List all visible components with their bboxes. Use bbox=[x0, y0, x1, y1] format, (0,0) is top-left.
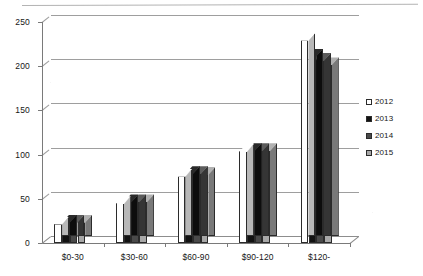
chart-floor-edge bbox=[42, 243, 350, 244]
bar-side-face bbox=[255, 143, 262, 236]
chart-floor-edge bbox=[350, 236, 359, 244]
legend-label: 2012 bbox=[375, 97, 393, 106]
plot-area: 050100150200250$0-30$30-60$60-90$90-120$… bbox=[0, 0, 423, 276]
bar-side-face bbox=[185, 169, 192, 236]
y-axis-label: 50 bbox=[4, 194, 30, 204]
y-axis-label: 250 bbox=[4, 17, 30, 27]
y-axis-label: 100 bbox=[4, 150, 30, 160]
legend-swatch-icon bbox=[366, 150, 372, 156]
bar-2012-60-90 bbox=[178, 169, 186, 243]
y-axis-line bbox=[42, 22, 43, 244]
bar-front-face bbox=[239, 151, 247, 243]
legend-label: 2015 bbox=[375, 148, 393, 157]
x-axis-label: $120- bbox=[285, 252, 353, 262]
gridline bbox=[51, 15, 359, 16]
bar-2012-0-30 bbox=[54, 217, 62, 243]
x-axis-label: $0-30 bbox=[39, 252, 107, 262]
y-axis-label: 0 bbox=[4, 238, 30, 248]
bar-side-face bbox=[262, 143, 269, 236]
y-axis-label: 200 bbox=[4, 61, 30, 71]
legend-item-2013[interactable]: 2013 bbox=[366, 113, 393, 124]
legend-item-2014[interactable]: 2014 bbox=[366, 130, 393, 141]
x-axis-tick bbox=[288, 243, 289, 247]
bar-front-face bbox=[301, 40, 309, 243]
legend-item-2012[interactable]: 2012 bbox=[366, 96, 393, 107]
x-axis-tick bbox=[165, 243, 166, 247]
legend-label: 2013 bbox=[375, 114, 393, 123]
bar-2012-30-60 bbox=[116, 196, 124, 243]
bar-chart: 050100150200250$0-30$30-60$60-90$90-120$… bbox=[0, 0, 423, 276]
bar-side-face bbox=[308, 33, 315, 236]
x-axis-label: $30-60 bbox=[100, 252, 168, 262]
bar-side-face bbox=[316, 49, 323, 236]
bar-side-face bbox=[247, 144, 254, 236]
bar-front-face bbox=[54, 224, 62, 243]
legend-swatch-icon bbox=[366, 116, 372, 122]
x-axis-label: $60-90 bbox=[162, 252, 230, 262]
x-axis-tick bbox=[104, 243, 105, 247]
y-axis-label: 150 bbox=[4, 105, 30, 115]
x-axis-tick bbox=[350, 243, 351, 247]
bar-front-face bbox=[116, 203, 124, 243]
bar-side-face bbox=[208, 167, 215, 236]
legend-swatch-icon bbox=[366, 133, 372, 139]
bar-side-face bbox=[193, 166, 200, 236]
bar-2012-120- bbox=[301, 33, 309, 243]
legend-label: 2014 bbox=[375, 131, 393, 140]
bar-side-face bbox=[270, 143, 277, 236]
bar-side-face bbox=[332, 57, 339, 236]
bar-front-face bbox=[178, 176, 186, 243]
legend-item-2015[interactable]: 2015 bbox=[366, 147, 393, 158]
bar-side-face bbox=[324, 53, 331, 236]
x-axis-label: $90-120 bbox=[224, 252, 292, 262]
legend-swatch-icon bbox=[366, 99, 372, 105]
bar-2012-90-120 bbox=[239, 144, 247, 243]
x-axis-tick bbox=[227, 243, 228, 247]
bar-side-face bbox=[201, 166, 208, 236]
